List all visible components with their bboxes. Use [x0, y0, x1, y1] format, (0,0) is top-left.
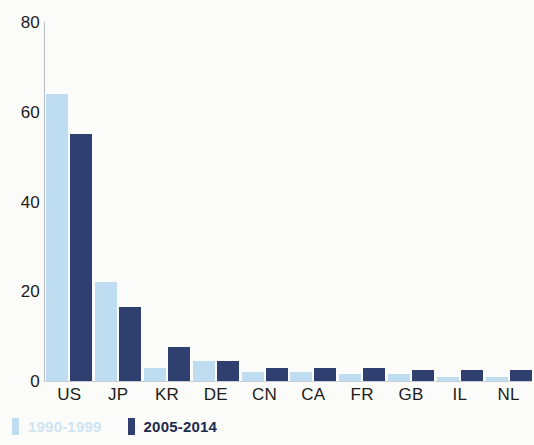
- bar-group: [242, 22, 288, 381]
- x-axis-tick-label: DE: [191, 384, 241, 406]
- bar-group: [388, 22, 434, 381]
- bar: [363, 368, 385, 381]
- x-axis-tick-label: JP: [93, 384, 143, 406]
- x-axis-tick-label: KR: [142, 384, 192, 406]
- x-axis-tick-label: NL: [484, 384, 534, 406]
- bar-group: [46, 22, 92, 381]
- bar: [193, 361, 215, 381]
- bar: [314, 368, 336, 381]
- bar-group: [144, 22, 190, 381]
- bar-groups: [44, 22, 532, 381]
- x-axis-tick-label: GB: [386, 384, 436, 406]
- x-axis-tick-label: CA: [288, 384, 338, 406]
- bar: [388, 374, 410, 381]
- legend-label: 2005-2014: [144, 419, 218, 434]
- bar: [486, 377, 508, 381]
- bar: [339, 374, 361, 381]
- bar: [290, 372, 312, 381]
- bar: [437, 377, 459, 381]
- bar: [46, 94, 68, 381]
- bar-chart: 020406080 USJPKRDECNCAFRGBILNL 1990-1999…: [0, 0, 534, 445]
- bar: [242, 372, 264, 381]
- bar-group: [437, 22, 483, 381]
- chart-legend: 1990-1999 2005-2014: [12, 418, 217, 435]
- y-axis: 020406080: [0, 0, 40, 445]
- x-axis-tick-label: US: [44, 384, 94, 406]
- legend-item-1990-1999: 1990-1999: [12, 418, 102, 435]
- bar: [510, 370, 532, 381]
- bar-group: [95, 22, 141, 381]
- x-axis-tick-label: FR: [337, 384, 387, 406]
- bar: [95, 282, 117, 381]
- x-axis-tick-label: CN: [240, 384, 290, 406]
- bar: [266, 368, 288, 381]
- bar: [144, 368, 166, 381]
- y-axis-tick-label: 60: [6, 104, 40, 121]
- bar-group: [290, 22, 336, 381]
- legend-swatch-dark-icon: [128, 418, 135, 435]
- bar: [461, 370, 483, 381]
- bar-group: [193, 22, 239, 381]
- y-axis-tick-label: 20: [6, 283, 40, 300]
- legend-label: 1990-1999: [28, 419, 102, 434]
- y-axis-tick-label: 0: [6, 373, 40, 390]
- bar: [119, 307, 141, 381]
- bar: [70, 134, 92, 381]
- x-axis-tick-label: IL: [435, 384, 485, 406]
- bar-group: [339, 22, 385, 381]
- x-axis-line: [44, 381, 532, 382]
- bar: [217, 361, 239, 381]
- y-axis-tick-label: 80: [6, 14, 40, 31]
- x-axis-labels: USJPKRDECNCAFRGBILNL: [44, 384, 532, 408]
- legend-swatch-light-icon: [12, 418, 19, 435]
- legend-item-2005-2014: 2005-2014: [128, 418, 218, 435]
- y-axis-tick-label: 40: [6, 194, 40, 211]
- bar-group: [486, 22, 532, 381]
- bar: [412, 370, 434, 381]
- bar: [168, 347, 190, 381]
